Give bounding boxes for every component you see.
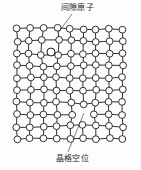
lattice-atom: [106, 38, 113, 45]
lattice-atom: [66, 25, 73, 32]
lattice-atom: [53, 98, 60, 105]
lattice-atom: [14, 38, 21, 45]
lattice-atom: [25, 50, 32, 57]
lattice-atom: [106, 123, 113, 130]
lattice-atom: [68, 99, 75, 106]
lattice-atom: [67, 63, 74, 70]
lattice-atom: [105, 75, 112, 82]
lattice-atom: [14, 87, 21, 94]
lattice-atom: [53, 123, 60, 130]
lattice-atom: [67, 122, 74, 129]
lattice-atom: [120, 62, 127, 69]
lattice-atom: [40, 99, 47, 106]
leader-line-layer: [58, 14, 84, 152]
lattice-diagram-svg: [0, 0, 141, 170]
lattice-atom: [40, 111, 47, 118]
lattice-atom: [92, 136, 99, 143]
lattice-atom: [14, 75, 21, 82]
lattice-atom: [54, 111, 61, 118]
lattice-atom: [13, 98, 20, 105]
lattice-atom: [27, 25, 34, 32]
lattice-atom: [38, 37, 45, 44]
lattice-atom: [40, 25, 47, 32]
lattice-atom: [53, 87, 60, 94]
lattice-atom: [119, 112, 126, 119]
lattice-atom: [66, 75, 73, 82]
lattice-atom: [40, 63, 47, 70]
lattice-atom: [40, 74, 47, 81]
lattice-atom: [40, 123, 47, 130]
lattice-atom: [56, 36, 63, 43]
lattice-atom: [66, 87, 73, 94]
lattice-atom: [92, 62, 99, 69]
lattice-atom: [54, 24, 61, 31]
lattice-atom: [14, 111, 21, 118]
lattice-atom: [13, 25, 20, 32]
lattice-atom: [40, 135, 47, 142]
lattice-atom: [119, 38, 126, 45]
lattice-atom: [92, 26, 99, 33]
lattice-atom: [53, 74, 60, 81]
lattice-atom: [26, 62, 33, 69]
lattice-atom: [105, 98, 112, 105]
lattice-atom: [92, 99, 99, 106]
lattice-atom: [106, 50, 113, 57]
lattice-atom: [92, 122, 99, 129]
lattice-atom: [80, 87, 87, 94]
lattice-defect-figure: 间隙原子 晶格空位: [0, 0, 141, 170]
lattice-atom: [120, 124, 127, 131]
lattice-atom: [27, 74, 34, 81]
lattice-atom: [68, 37, 75, 44]
lattice-atom: [80, 62, 87, 69]
lattice-atom: [79, 75, 86, 82]
lattice-atom: [80, 51, 87, 58]
lattice-atom: [79, 121, 86, 128]
lattice-atom: [14, 62, 21, 69]
lattice-atom: [107, 135, 114, 142]
lattice-atom: [80, 37, 87, 44]
lattice-atom: [26, 135, 33, 142]
lattice-atom: [26, 99, 33, 106]
lattice-atom: [55, 52, 62, 59]
lattice-atom: [119, 136, 126, 143]
lattice-atom: [67, 136, 74, 143]
interstitial-atom: [47, 48, 55, 56]
lattice-atom: [92, 75, 99, 82]
lattice-atom: [27, 86, 34, 93]
lattice-atom: [80, 135, 87, 142]
lattice-atom: [119, 74, 126, 81]
lattice-atom: [37, 52, 44, 59]
lattice-atom: [92, 39, 99, 46]
lattice-atom: [53, 63, 60, 70]
lattice-atom: [80, 101, 87, 108]
lattice-atom: [27, 112, 34, 119]
lattice-atom: [25, 37, 32, 44]
lattice-atom: [13, 124, 20, 131]
lattice-atom: [93, 86, 100, 93]
lattice-atom: [105, 111, 112, 118]
lattice-atom: [80, 26, 87, 33]
lattice-atom: [68, 50, 75, 57]
lattice-atom: [14, 136, 21, 143]
lattice-atom: [119, 98, 126, 105]
lattice-atom: [105, 25, 112, 32]
lattice-atom: [53, 135, 60, 142]
lattice-atom: [69, 111, 76, 118]
lattice-atom: [106, 87, 113, 94]
lattice-atom: [13, 50, 20, 57]
lattice-atom: [119, 86, 126, 93]
lattice-atom: [105, 62, 112, 69]
lattice-atom: [26, 124, 33, 131]
lattice-atom: [119, 50, 126, 57]
lattice-atom: [92, 50, 99, 57]
lattice-atom: [41, 86, 48, 93]
lattice-atom: [91, 111, 98, 118]
lattice-atom: [119, 26, 126, 33]
